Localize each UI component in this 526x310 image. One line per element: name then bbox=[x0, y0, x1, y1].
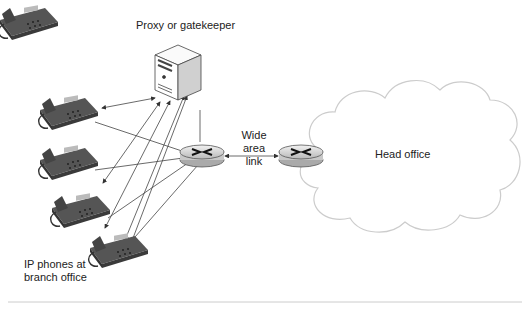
router-icon bbox=[279, 145, 323, 167]
phones-label-line1: IP phones at bbox=[24, 258, 87, 271]
wan-label-line2: link bbox=[230, 155, 278, 168]
ip-phone-icon bbox=[39, 145, 98, 180]
server-icon bbox=[155, 45, 201, 100]
network-diagram: Proxy or gatekeeper Wide area link Head … bbox=[0, 0, 526, 310]
wan-link-label: Wide area link bbox=[230, 129, 278, 168]
ip-phone-icon bbox=[89, 233, 148, 268]
ip-phones-label: IP phones at branch office bbox=[24, 258, 87, 284]
connection-lines bbox=[95, 96, 278, 246]
head-office-label: Head office bbox=[375, 148, 430, 161]
proxy-label: Proxy or gatekeeper bbox=[136, 19, 235, 32]
wan-label-line1: Wide area bbox=[230, 129, 278, 155]
ip-phone-icon bbox=[39, 95, 98, 130]
phones-label-line2: branch office bbox=[24, 271, 87, 284]
ip-phone-icon bbox=[51, 193, 110, 228]
router-icon bbox=[180, 145, 224, 167]
ip-phone-icon bbox=[0, 5, 58, 40]
